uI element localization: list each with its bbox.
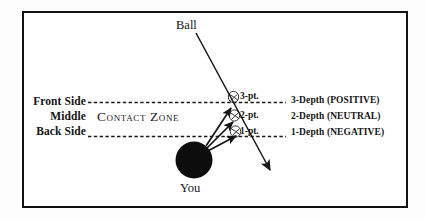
label-you: You [180, 182, 200, 195]
label-2-pt: 2-pt. [240, 111, 259, 121]
label-2-depth-neutral: 2-Depth (NEUTRAL) [291, 112, 381, 122]
label-front-side: Front Side [8, 96, 86, 108]
player-ball-shape [176, 142, 213, 179]
label-3-depth-positive: 3-Depth (POSITIVE) [291, 96, 380, 106]
label-1-pt: 1-pt. [240, 127, 259, 137]
label-1-depth-negative: 1-Depth (NEGATIVE) [291, 128, 384, 138]
diagram-page: Front Side Middle Back Side Contact Zone… [0, 0, 426, 219]
point-marker-2pt-icon [229, 110, 239, 121]
label-middle: Middle [8, 111, 86, 123]
label-contact-zone: Contact Zone [97, 110, 179, 124]
label-ball: Ball [176, 19, 197, 32]
label-3-pt: 3-pt. [240, 92, 259, 102]
label-back-side: Back Side [8, 126, 86, 138]
